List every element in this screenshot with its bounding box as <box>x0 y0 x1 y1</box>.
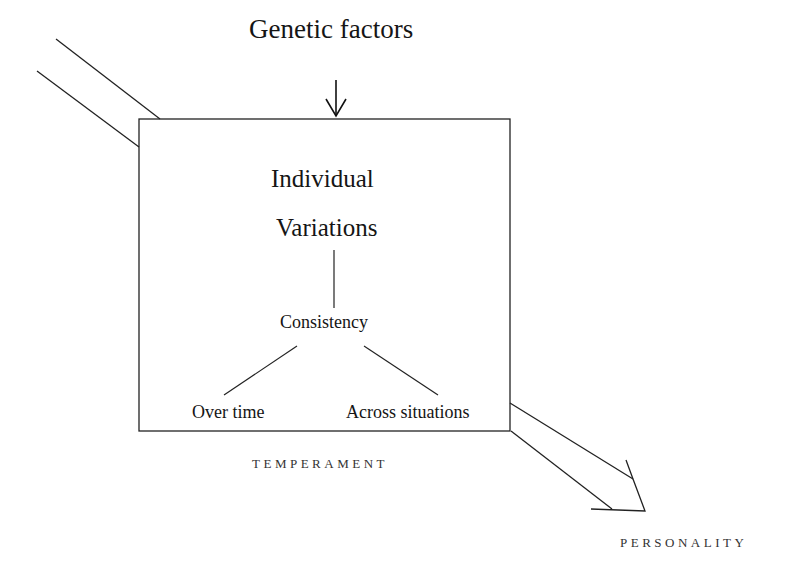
across-situations-label: Across situations <box>346 402 470 423</box>
consistency-label: Consistency <box>280 312 368 333</box>
connector-consistency-overtime <box>224 346 297 395</box>
inflow-line-upper <box>56 39 160 119</box>
down-arrow-icon <box>326 80 346 116</box>
personality-caption: PERSONALITY <box>620 535 747 551</box>
individual-label: Individual <box>271 165 374 193</box>
genetic-factors-label: Genetic factors <box>249 14 413 45</box>
variations-label: Variations <box>276 214 377 242</box>
connector-consistency-across <box>364 346 438 395</box>
diagram-canvas <box>0 0 801 568</box>
temperament-caption: TEMPERAMENT <box>252 456 388 472</box>
inflow-line-lower <box>37 71 139 147</box>
over-time-label: Over time <box>192 402 264 423</box>
outflow-arrow-icon <box>510 403 645 511</box>
